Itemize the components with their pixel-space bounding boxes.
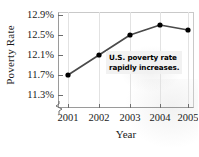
chart-annotation-line-1: U.S. poverty rate xyxy=(109,53,179,63)
data-point xyxy=(127,32,132,37)
y-axis-tick-labels: 12.9% 12.5% 12.1% 11.7% 11.3% xyxy=(16,0,54,110)
data-point xyxy=(157,22,162,27)
x-tick-label: 2002 xyxy=(89,112,110,123)
x-tick-label: 2003 xyxy=(120,112,141,123)
x-tick-label: 2005 xyxy=(178,112,199,123)
x-tick-label: 2004 xyxy=(150,112,171,123)
y-axis-label-text: Poverty Rate xyxy=(4,25,16,85)
data-point xyxy=(185,27,190,32)
y-tick-label: 12.1% xyxy=(27,50,54,60)
y-tick-label: 12.5% xyxy=(27,30,54,40)
chart-annotation-line-2: rapidly increases. xyxy=(109,63,179,73)
x-axis-tick-labels: 2001 2002 2003 2004 2005 xyxy=(48,112,198,126)
chart-annotation: U.S. poverty rate rapidly increases. xyxy=(106,51,182,74)
x-tick-label: 2001 xyxy=(58,112,79,123)
data-point xyxy=(96,52,101,57)
data-point xyxy=(65,72,70,77)
x-axis-label: Year xyxy=(58,128,194,140)
chart-figure: Poverty Rate 12.9% 12.5% 12.1% 11.7% 11.… xyxy=(0,0,198,157)
y-tick-label: 11.7% xyxy=(27,70,54,80)
y-tick-label: 11.3% xyxy=(27,90,54,100)
y-tick-label: 12.9% xyxy=(27,10,54,20)
